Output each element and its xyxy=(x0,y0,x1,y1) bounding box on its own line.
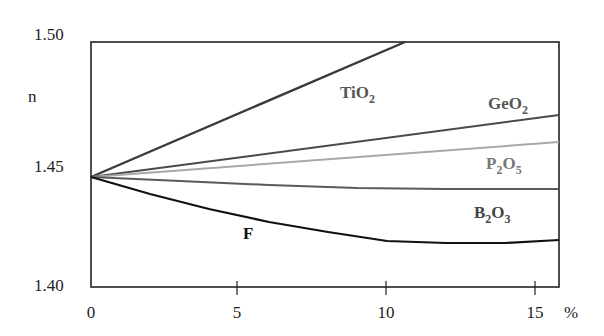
series-label-tio2: TiO2 xyxy=(340,83,375,106)
y-axis-label: n xyxy=(28,87,37,106)
x-tick-label-15: 15 xyxy=(527,303,544,322)
y-tick-label-1.45: 1.45 xyxy=(34,157,64,176)
x-axis-unit-label: % xyxy=(564,303,578,322)
series-label-f: F xyxy=(243,224,253,243)
x-ticks xyxy=(237,281,535,295)
y-tick-label-1.40: 1.40 xyxy=(34,276,64,295)
x-tick-label-0: 0 xyxy=(87,303,96,322)
series-label-b2o3: B2O3 xyxy=(474,203,511,226)
refractive-index-chart: n 1.50 1.45 1.40 0 5 10 15 % TiO2 GeO2 P… xyxy=(0,0,604,336)
y-tick-label-1.50: 1.50 xyxy=(34,25,64,44)
series-label-p2o5: P2O5 xyxy=(486,154,522,177)
series-line-b2o3 xyxy=(91,177,559,189)
x-tick-label-10: 10 xyxy=(378,303,395,322)
series-label-geo2: GeO2 xyxy=(488,94,528,117)
x-tick-label-5: 5 xyxy=(233,303,242,322)
